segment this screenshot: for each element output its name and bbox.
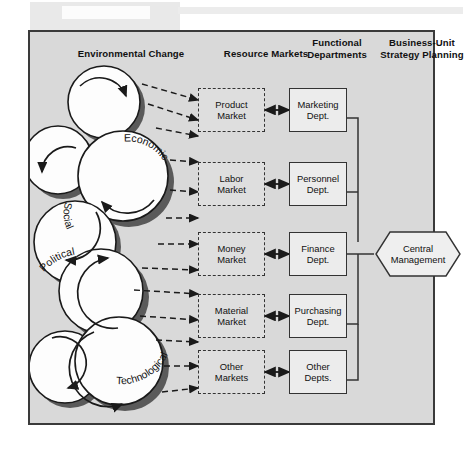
market-label-line: Money — [217, 243, 245, 254]
market-box-labor-market[interactable]: Labor Market — [198, 162, 265, 206]
dept-label-line: Other — [306, 361, 329, 372]
dept-box-personnel-dept[interactable]: Personnel Dept. — [289, 162, 347, 206]
central-management-node[interactable]: Central Management — [374, 230, 462, 278]
market-label-line: Labor — [220, 173, 244, 184]
dept-label-line: Dept. — [307, 184, 329, 195]
diagram-frame: Environmental Change Resource Markets Fu… — [28, 30, 435, 425]
market-label-line: Markets — [215, 372, 248, 383]
market-label-line: Material — [215, 305, 248, 316]
scan-artifact-notch — [62, 6, 150, 19]
dept-label-line: Dept. — [307, 254, 329, 265]
dept-label-line: Personnel — [297, 173, 339, 184]
market-label-line: Market — [217, 316, 246, 327]
environment-circles-group: Economic Social Political Technological — [30, 66, 174, 411]
market-label-line: Market — [217, 254, 246, 265]
market-label-line: Product — [215, 99, 247, 110]
market-box-material-market[interactable]: Material Market — [198, 294, 265, 338]
central-label-line: Central — [403, 243, 433, 254]
market-label-line: Market — [217, 184, 246, 195]
dept-box-marketing-dept[interactable]: Marketing Dept. — [289, 88, 347, 132]
market-label-line: Market — [217, 110, 246, 121]
scan-artifact-rule — [178, 7, 463, 14]
dept-label-line: Finance — [301, 243, 334, 254]
dept-label-line: Purchasing — [295, 305, 342, 316]
dept-label-line: Dept. — [307, 110, 329, 121]
dept-label-line: Dept. — [307, 316, 329, 327]
dept-label-line: Marketing — [297, 99, 338, 110]
department-bus-lines — [347, 118, 374, 380]
market-label-line: Other — [220, 361, 243, 372]
dept-box-purchasing-dept[interactable]: Purchasing Dept. — [289, 294, 347, 338]
dept-box-finance-dept[interactable]: Finance Dept. — [289, 232, 347, 276]
central-label-line: Management — [391, 254, 446, 265]
market-dept-arrows — [265, 110, 289, 372]
dept-label-line: Depts. — [304, 372, 331, 383]
market-box-money-market[interactable]: Money Market — [198, 232, 265, 276]
market-box-other-markets[interactable]: Other Markets — [198, 350, 265, 394]
market-box-product-market[interactable]: Product Market — [198, 88, 265, 132]
dept-box-other-depts[interactable]: Other Depts. — [289, 350, 347, 394]
